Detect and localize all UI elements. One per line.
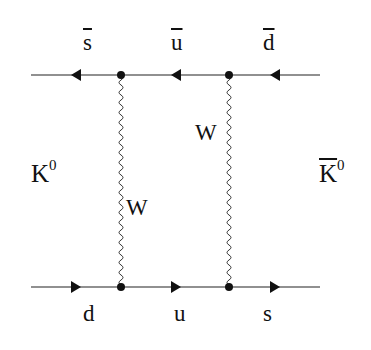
w-boson-propagator-left	[119, 75, 123, 287]
arrow-right-icon	[71, 281, 81, 293]
label-w-left-line: W	[126, 196, 148, 219]
arrow-left-icon	[71, 69, 81, 81]
label-sbar: s	[83, 31, 92, 54]
vertex-dot	[225, 71, 233, 79]
label-s: s	[263, 302, 272, 325]
label-k0: K0	[31, 161, 57, 186]
feynman-diagram: s u d d u s W W K0 K0	[0, 0, 371, 350]
vertex-dot	[117, 71, 125, 79]
arrow-right-icon	[270, 281, 280, 293]
label-d: d	[83, 302, 95, 325]
label-u: u	[174, 302, 186, 325]
vertex-dot	[225, 283, 233, 291]
label-ubar: u	[171, 31, 183, 54]
arrow-right-icon	[171, 281, 181, 293]
arrow-left-icon	[270, 69, 280, 81]
label-k0bar: K0	[319, 161, 345, 186]
vertex-dot	[117, 283, 125, 291]
label-w-right-line: W	[195, 121, 217, 144]
arrow-left-icon	[171, 69, 181, 81]
label-dbar: d	[263, 31, 275, 54]
w-boson-propagator-right	[227, 75, 231, 287]
